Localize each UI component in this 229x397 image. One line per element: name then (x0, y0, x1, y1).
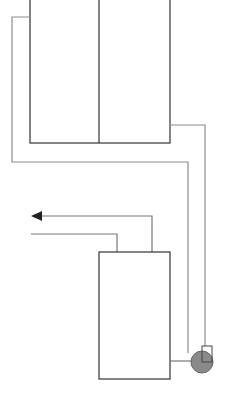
diagram-canvas (0, 0, 229, 397)
outlet-pipe (31, 234, 117, 252)
lower-tank (99, 252, 170, 379)
arrow-left-icon (31, 211, 42, 221)
piping-diagram (0, 0, 229, 397)
pump-icon (191, 346, 213, 373)
upper-tank (30, 0, 170, 143)
